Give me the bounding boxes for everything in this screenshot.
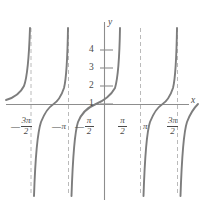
- x-tick-label-pi: π: [143, 122, 148, 131]
- pi-symbol: π: [143, 122, 148, 131]
- fraction-denominator: 2: [86, 127, 93, 137]
- fraction-numerator: π: [119, 116, 126, 126]
- fraction-numerator: 3π: [21, 116, 32, 126]
- fraction: π 2: [85, 116, 94, 136]
- curve-branch-left-mid: [34, 28, 68, 196]
- x-tick-label-neg-pi-over-2: — π 2: [75, 116, 94, 136]
- x-tick-label-neg-3pi-over-2: — 3π 2: [11, 116, 32, 136]
- y-tick-label-2: 2: [89, 81, 94, 91]
- x-tick-label-3pi-over-2: 3π 2: [167, 116, 178, 136]
- curve-branch-left-outer: [6, 28, 30, 100]
- curve-branch-center: [72, 28, 121, 196]
- y-tick-label-3: 3: [89, 63, 94, 73]
- fraction-denominator: 2: [119, 127, 126, 137]
- graph-figure: 4 3 2 1 y x — 3π 2 — π — π 2 π 2 π: [0, 0, 207, 218]
- fraction: π 2: [118, 116, 127, 136]
- x-axis-label: x: [191, 96, 195, 106]
- minus-sign: —: [52, 122, 61, 131]
- fraction-numerator: π: [86, 116, 93, 126]
- pi-symbol: π: [62, 122, 67, 131]
- fraction: 3π 2: [21, 116, 32, 136]
- curve-branch-right-mid: [144, 28, 178, 196]
- x-tick-label-pi-over-2: π 2: [118, 116, 127, 136]
- fraction-denominator: 2: [169, 127, 176, 137]
- fraction-denominator: 2: [23, 127, 30, 137]
- fraction: 3π 2: [167, 116, 178, 136]
- minus-sign: —: [75, 122, 84, 131]
- curve-branch-right-outer: [181, 104, 199, 196]
- y-tick-label-4: 4: [89, 45, 94, 55]
- y-tick-label-1: 1: [89, 99, 94, 109]
- fraction-numerator: 3π: [167, 116, 178, 126]
- y-axis-label: y: [108, 18, 112, 28]
- minus-sign: —: [11, 122, 20, 131]
- x-tick-label-neg-pi: — π: [52, 122, 66, 131]
- plot-canvas: [0, 0, 207, 218]
